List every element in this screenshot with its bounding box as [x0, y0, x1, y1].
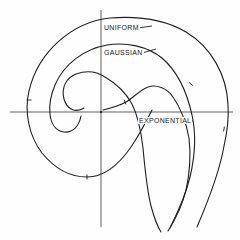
exponential-curve-label: EXPONENTIAL [138, 117, 192, 124]
gaussian-curve-label: GAUSSIAN [103, 49, 144, 56]
uniform-curve-label: UNIFORM [103, 24, 140, 31]
inner-curl-curve [63, 72, 161, 232]
uniform-leader-line [138, 26, 152, 28]
spiral-figure-svg [0, 0, 240, 240]
exponential-curve [103, 86, 190, 231]
curve-tick-1 [224, 127, 225, 132]
curve-tick-2 [189, 82, 193, 85]
center-mark [100, 111, 102, 113]
gaussian-curve [50, 44, 195, 228]
figure-canvas: UNIFORM GAUSSIAN EXPONENTIAL [0, 0, 240, 240]
